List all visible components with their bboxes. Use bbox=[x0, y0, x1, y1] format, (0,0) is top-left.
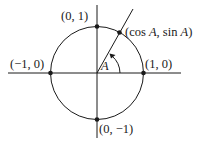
angle-arc bbox=[112, 56, 120, 73]
arrowhead-icon bbox=[110, 54, 116, 59]
label-top: (0, 1) bbox=[61, 9, 88, 23]
point-angle bbox=[117, 30, 122, 35]
unit-circle-diagram: (0, 1) (0, −1) (−1, 0) (1, 0) (cos A, si… bbox=[0, 0, 205, 143]
label-left: (−1, 0) bbox=[10, 57, 44, 71]
label-bottom: (0, −1) bbox=[99, 122, 133, 136]
point-left bbox=[48, 71, 53, 76]
label-angle-point: (cos A, sin A) bbox=[125, 25, 192, 39]
point-right bbox=[141, 71, 146, 76]
label-angle: A bbox=[100, 59, 109, 73]
label-right: (1, 0) bbox=[145, 57, 172, 71]
point-top bbox=[95, 24, 100, 29]
